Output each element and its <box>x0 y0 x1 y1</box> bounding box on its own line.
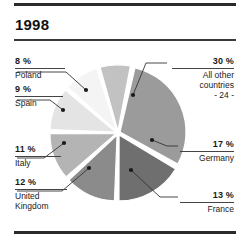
slice-label-poland: 8 % Poland <box>15 56 65 80</box>
leader-dot-spain <box>61 108 65 112</box>
slice-label-france: 13 % France <box>180 190 234 214</box>
slice-name-all-other-countries-line2: countries <box>172 80 234 90</box>
leader-dot-poland <box>84 88 88 92</box>
label-underline <box>180 151 234 152</box>
slice-name-spain: Spain <box>15 98 63 108</box>
leader-dot-france <box>129 168 133 172</box>
slice-percent-all-other-countries: 30 % <box>172 56 234 67</box>
slice-percent-germany: 17 % <box>180 139 234 150</box>
slice-name-united-kingdom-line1: United <box>15 191 67 201</box>
slice-name-germany: Germany <box>180 153 234 163</box>
slice-label-all-other-countries: 30 % All other countries - 24 - <box>172 56 234 100</box>
label-underline <box>15 156 61 157</box>
leader-dot-germany <box>150 138 154 142</box>
slice-name-united-kingdom-line2: Kingdom <box>15 201 67 211</box>
slice-name-poland: Poland <box>15 70 65 80</box>
slice-percent-poland: 8 % <box>15 56 65 67</box>
slice-percent-italy: 11 % <box>15 144 61 155</box>
label-underline <box>15 68 65 69</box>
slice-name-all-other-countries-line3: - 24 - <box>172 90 234 100</box>
bottom-divider-rule <box>14 231 236 234</box>
slice-label-italy: 11 % Italy <box>15 144 61 168</box>
leader-dot-uk <box>87 166 91 170</box>
leader-dot-other <box>131 93 135 97</box>
pie-slice-group <box>50 65 186 201</box>
slice-percent-spain: 9 % <box>15 84 63 95</box>
pie-chart-figure: 1998 30 % All other countries - 24 - <box>0 0 238 241</box>
slice-label-united-kingdom: 12 % United Kingdom <box>15 177 67 211</box>
slice-name-all-other-countries-line1: All other <box>172 70 234 80</box>
slice-name-france: France <box>180 204 234 214</box>
label-underline <box>15 96 63 97</box>
slice-label-germany: 17 % Germany <box>180 139 234 163</box>
label-underline <box>15 189 67 190</box>
slice-name-italy: Italy <box>15 158 61 168</box>
slice-percent-france: 13 % <box>180 190 234 201</box>
slice-percent-united-kingdom: 12 % <box>15 177 67 188</box>
label-underline <box>180 202 234 203</box>
label-underline <box>172 68 234 69</box>
slice-label-spain: 9 % Spain <box>15 84 63 108</box>
leader-dot-italy <box>62 141 66 145</box>
